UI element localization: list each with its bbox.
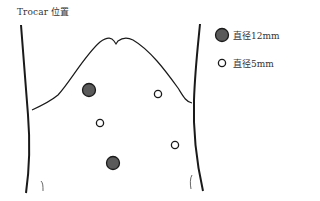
trocar-port-5mm-upper-right xyxy=(154,90,161,97)
legend-label-12mm: 直径12mm xyxy=(233,29,280,42)
left-hip-mark xyxy=(41,181,43,191)
trocar-port-5mm-lower-right xyxy=(171,141,178,148)
legend-12mm-icon xyxy=(216,29,229,42)
trocar-port-12mm-upper xyxy=(83,84,96,97)
trocar-port-5mm-middle-left xyxy=(96,119,103,126)
legend-5mm-icon xyxy=(218,59,225,66)
right-torso-line xyxy=(194,24,203,191)
trocar-port-12mm-lower xyxy=(107,157,120,170)
costal-margin-line xyxy=(32,38,192,110)
left-torso-line xyxy=(21,25,29,193)
legend-label-5mm: 直径5mm xyxy=(233,57,274,70)
legend-item-5mm: 直径5mm xyxy=(233,57,274,70)
legend-item-12mm: 直径12mm xyxy=(233,29,280,42)
right-hip-mark xyxy=(190,175,192,189)
